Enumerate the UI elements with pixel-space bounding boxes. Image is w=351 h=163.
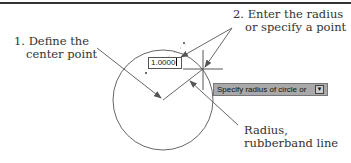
- text-caret: [176, 58, 177, 66]
- step2-line2: or specify a point: [233, 21, 346, 34]
- circle-radius-diagram: 1. Define the center point 2. Enter the …: [0, 0, 351, 163]
- step2-label: 2. Enter the radius or specify a point: [233, 8, 346, 34]
- radius-line2: rubberband line: [244, 137, 338, 150]
- rubberband-line: [163, 69, 203, 100]
- leader-step2-point: [205, 28, 232, 67]
- tooltip-text: Specify radius of circle or: [217, 85, 306, 94]
- radius-input[interactable]: 1.0000: [148, 57, 182, 69]
- leader-step2-input: [181, 28, 232, 57]
- down-arrow-icon[interactable]: ▼: [315, 85, 324, 94]
- step1-label: 1. Define the center point: [14, 35, 97, 61]
- step1-line2: center point: [14, 48, 97, 61]
- radius-input-value: 1.0000: [151, 58, 175, 67]
- radius-label: Radius, rubberband line: [244, 124, 338, 150]
- command-tooltip: Specify radius of circle or ▼: [213, 83, 328, 96]
- leader-step1: [97, 48, 161, 98]
